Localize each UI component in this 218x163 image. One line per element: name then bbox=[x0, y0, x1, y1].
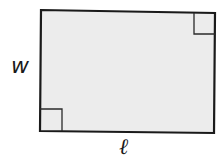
length-label: ℓ bbox=[119, 136, 128, 158]
rectangle-shape bbox=[40, 10, 215, 133]
rectangle-diagram bbox=[0, 0, 218, 163]
width-label: w bbox=[11, 55, 29, 77]
